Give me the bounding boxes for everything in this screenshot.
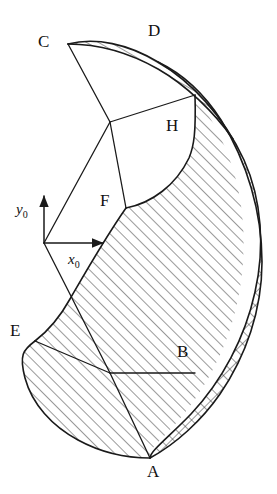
x-axis-label: x0 — [67, 251, 80, 270]
line-origin-to-crossing — [44, 122, 110, 243]
point-label-C: C — [38, 32, 49, 51]
axes-group: y0 x0 — [14, 196, 103, 270]
geometry-diagram: y0 x0 C D H F E B A — [0, 0, 277, 494]
point-label-H: H — [166, 116, 178, 135]
point-label-E: E — [10, 321, 20, 340]
x-axis-label-subscript: 0 — [75, 259, 80, 270]
line-crossing-to-F — [110, 122, 126, 208]
point-label-B: B — [177, 342, 188, 361]
y-axis-label-letter: y — [14, 201, 23, 217]
line-C-to-crossing — [68, 44, 110, 122]
point-label-F: F — [100, 191, 109, 210]
figure-root: y0 x0 C D H F E B A — [0, 0, 277, 494]
y-axis-label: y0 — [14, 201, 28, 220]
line-crossing-to-H-arc — [110, 95, 195, 122]
hatched-regions-group — [22, 41, 262, 458]
y-axis-label-subscript: 0 — [23, 209, 28, 220]
point-label-D: D — [148, 21, 160, 40]
point-label-A: A — [147, 462, 160, 481]
